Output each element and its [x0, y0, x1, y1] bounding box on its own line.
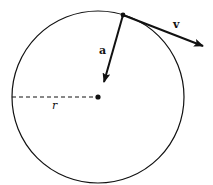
- center-point: [95, 94, 100, 99]
- radius-label: r: [52, 99, 58, 112]
- acceleration-label: a: [99, 44, 106, 57]
- circular-motion-diagram: v a r: [0, 0, 213, 185]
- velocity-label: v: [172, 18, 180, 31]
- acceleration-vector-arrow: [104, 15, 123, 82]
